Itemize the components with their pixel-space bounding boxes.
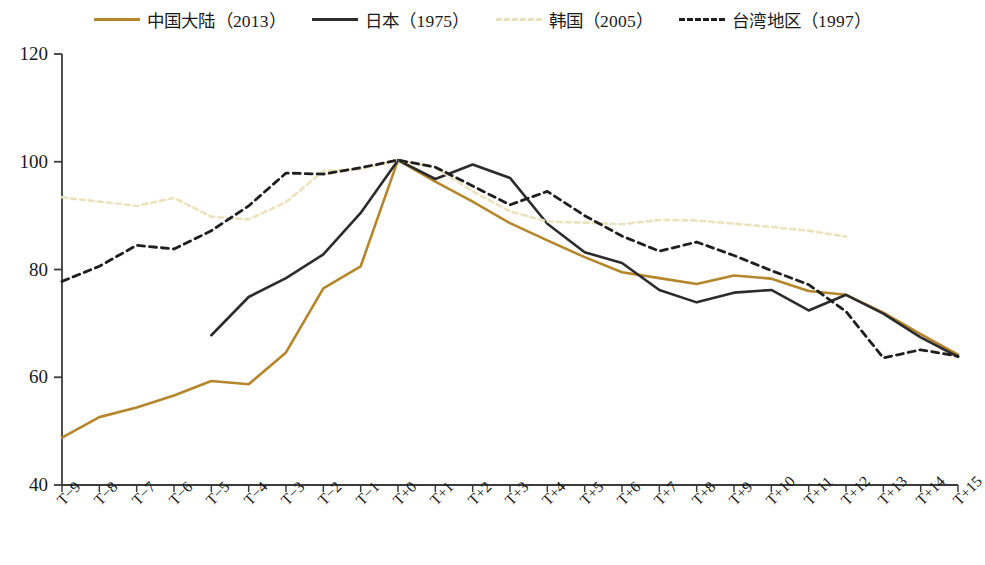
y-axis-tick-label: 60 — [4, 367, 48, 386]
series-line-taiwan — [62, 160, 958, 358]
y-axis-tick-label: 120 — [4, 44, 48, 63]
y-axis-tick-label: 40 — [4, 475, 48, 494]
y-axis-tick-label: 100 — [4, 152, 48, 171]
y-axis-tick-label: 80 — [4, 260, 48, 279]
series-line-china — [62, 160, 958, 437]
